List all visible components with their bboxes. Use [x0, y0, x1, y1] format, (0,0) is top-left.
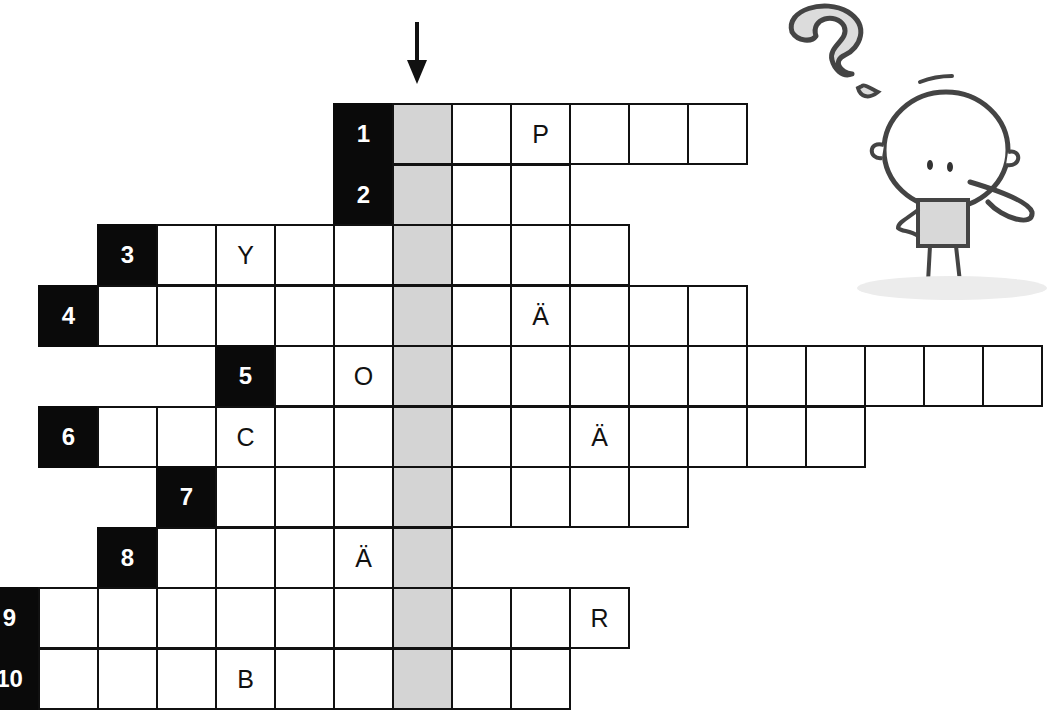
solution-cell[interactable]	[392, 103, 453, 165]
letter-cell[interactable]	[333, 406, 394, 468]
letter-cell[interactable]	[510, 587, 571, 649]
letter-cell[interactable]	[274, 648, 335, 710]
letter-cell[interactable]	[215, 587, 276, 649]
letter-cell[interactable]: B	[215, 648, 276, 710]
solution-cell[interactable]	[392, 406, 453, 468]
letter-cell[interactable]	[215, 466, 276, 528]
down-arrow-icon	[405, 22, 429, 84]
letter-cell[interactable]	[451, 285, 512, 347]
clue-number-cell: 1	[333, 103, 394, 165]
letter-cell[interactable]	[569, 103, 630, 165]
letter-cell[interactable]	[628, 406, 689, 468]
letter-cell[interactable]	[451, 103, 512, 165]
letter-cell[interactable]	[451, 345, 512, 407]
letter-cell[interactable]	[97, 587, 158, 649]
letter-cell[interactable]	[97, 285, 158, 347]
thinking-stick-figure-icon	[770, 0, 1055, 305]
clue-number-cell: 8	[97, 527, 158, 589]
letter-cell[interactable]	[805, 345, 866, 407]
letter-cell[interactable]	[628, 103, 689, 165]
letter-cell[interactable]	[451, 648, 512, 710]
letter-cell[interactable]	[156, 406, 217, 468]
solution-cell[interactable]	[392, 224, 453, 286]
letter-cell[interactable]	[923, 345, 984, 407]
clue-number-cell: 5	[215, 345, 276, 407]
solution-cell[interactable]	[392, 285, 453, 347]
letter-cell[interactable]	[333, 648, 394, 710]
letter-cell[interactable]	[746, 345, 807, 407]
clue-number-cell: 4	[38, 285, 99, 347]
letter-cell[interactable]	[687, 406, 748, 468]
letter-cell[interactable]	[569, 466, 630, 528]
letter-cell[interactable]	[805, 406, 866, 468]
letter-cell[interactable]: Ä	[569, 406, 630, 468]
letter-cell[interactable]	[333, 587, 394, 649]
solution-cell[interactable]	[392, 648, 453, 710]
letter-cell[interactable]: R	[569, 587, 630, 649]
solution-cell[interactable]	[392, 466, 453, 528]
clue-number-cell: 2	[333, 164, 394, 226]
letter-cell[interactable]	[333, 285, 394, 347]
letter-cell[interactable]	[274, 406, 335, 468]
letter-cell[interactable]: Ä	[510, 285, 571, 347]
letter-cell[interactable]	[215, 527, 276, 589]
letter-cell[interactable]	[156, 587, 217, 649]
letter-cell[interactable]	[38, 587, 99, 649]
letter-cell[interactable]	[451, 466, 512, 528]
letter-cell[interactable]	[451, 164, 512, 226]
letter-cell[interactable]	[274, 466, 335, 528]
clue-number-cell: 6	[38, 406, 99, 468]
letter-cell[interactable]	[156, 224, 217, 286]
letter-cell[interactable]	[274, 587, 335, 649]
solution-cell[interactable]	[392, 527, 453, 589]
letter-cell[interactable]	[864, 345, 925, 407]
clue-number-cell: 7	[156, 466, 217, 528]
solution-cell[interactable]	[392, 345, 453, 407]
solution-cell[interactable]	[392, 587, 453, 649]
letter-cell[interactable]	[510, 345, 571, 407]
letter-cell[interactable]	[510, 466, 571, 528]
letter-cell[interactable]: O	[333, 345, 394, 407]
letter-cell[interactable]	[156, 527, 217, 589]
letter-cell[interactable]: Y	[215, 224, 276, 286]
clue-number-cell: 10	[0, 648, 40, 710]
letter-cell[interactable]	[510, 224, 571, 286]
letter-cell[interactable]	[156, 648, 217, 710]
letter-cell[interactable]	[156, 285, 217, 347]
solution-cell[interactable]	[392, 164, 453, 226]
letter-cell[interactable]	[569, 224, 630, 286]
letter-cell[interactable]	[97, 406, 158, 468]
letter-cell[interactable]	[274, 345, 335, 407]
letter-cell[interactable]	[274, 224, 335, 286]
letter-cell[interactable]	[687, 345, 748, 407]
letter-cell[interactable]: Ä	[333, 527, 394, 589]
letter-cell[interactable]	[451, 406, 512, 468]
letter-cell[interactable]	[628, 285, 689, 347]
letter-cell[interactable]	[215, 285, 276, 347]
letter-cell[interactable]	[274, 527, 335, 589]
letter-cell[interactable]: P	[510, 103, 571, 165]
letter-cell[interactable]	[333, 224, 394, 286]
letter-cell[interactable]	[97, 648, 158, 710]
letter-cell[interactable]	[628, 466, 689, 528]
letter-cell[interactable]	[746, 406, 807, 468]
letter-cell[interactable]	[569, 345, 630, 407]
letter-cell[interactable]	[274, 285, 335, 347]
letter-cell[interactable]	[510, 164, 571, 226]
question-mark-icon	[791, 6, 878, 96]
letter-cell[interactable]	[451, 587, 512, 649]
letter-cell[interactable]	[687, 285, 748, 347]
clue-number-cell: 9	[0, 587, 40, 649]
letter-cell[interactable]	[628, 345, 689, 407]
letter-cell[interactable]	[510, 406, 571, 468]
letter-cell[interactable]	[510, 648, 571, 710]
letter-cell[interactable]	[333, 466, 394, 528]
letter-cell[interactable]: C	[215, 406, 276, 468]
clue-number-cell: 3	[97, 224, 158, 286]
letter-cell[interactable]	[451, 224, 512, 286]
letter-cell[interactable]	[982, 345, 1043, 407]
letter-cell[interactable]	[38, 648, 99, 710]
letter-cell[interactable]	[687, 103, 748, 165]
letter-cell[interactable]	[569, 285, 630, 347]
